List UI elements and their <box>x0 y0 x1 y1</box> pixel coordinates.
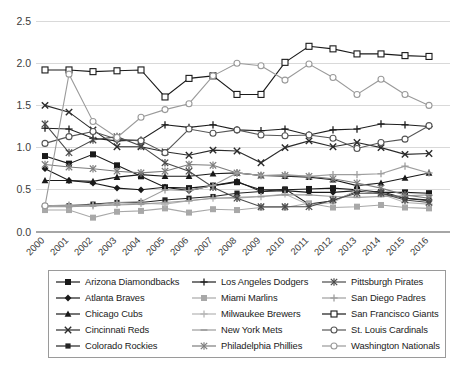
legend-label: New York Mets <box>221 324 282 336</box>
legend-marker-icon <box>321 292 347 304</box>
x-tick-label: 2012 <box>312 235 335 258</box>
data-point-marker <box>258 63 264 69</box>
x-tick-label: 2011 <box>288 235 310 257</box>
data-point-marker <box>90 215 96 221</box>
legend-item-st-louis-cardinals[interactable]: St. Louis Cardinals <box>321 322 453 338</box>
data-point-marker <box>354 145 360 151</box>
data-point-marker <box>138 67 144 73</box>
data-point-marker <box>330 294 337 301</box>
legend-marker-icon <box>191 308 217 320</box>
data-point-marker <box>378 51 384 57</box>
data-point-marker <box>66 149 72 157</box>
legend-label: Washington Nationals <box>351 340 440 352</box>
data-point-marker <box>402 91 408 97</box>
legend-label: Los Angeles Dodgers <box>221 276 308 288</box>
data-point-marker <box>114 134 120 140</box>
data-point-marker <box>306 43 312 49</box>
data-point-marker <box>114 162 120 168</box>
data-point-marker <box>234 91 240 97</box>
legend-item-pittsburgh-pirates[interactable]: Pittsburgh Pirates <box>321 274 453 290</box>
data-point-marker <box>258 91 264 97</box>
x-tick-label: 2016 <box>408 235 431 258</box>
data-point-marker <box>200 310 207 317</box>
data-point-marker <box>138 208 144 214</box>
data-point-marker <box>306 132 312 138</box>
data-point-marker <box>186 75 192 81</box>
data-point-marker <box>234 60 240 66</box>
data-point-marker <box>426 123 432 129</box>
data-point-marker <box>306 61 312 67</box>
legend-item-arizona-diamondbacks[interactable]: Arizona Diamondbacks <box>55 274 191 290</box>
legend-label: San Diego Padres <box>351 292 426 304</box>
data-point-marker <box>186 126 192 132</box>
x-tick-label: 2008 <box>216 235 239 258</box>
data-point-marker <box>401 163 408 170</box>
data-point-marker <box>330 46 336 52</box>
legend-label: Chicago Cubs <box>85 308 143 320</box>
legend-marker-icon <box>321 340 347 352</box>
legend-item-atlanta-braves[interactable]: Atlanta Braves <box>55 290 191 306</box>
data-point-marker <box>329 126 336 133</box>
legend-label: Milwaukee Brewers <box>221 308 301 320</box>
data-point-marker <box>90 129 96 135</box>
legend-marker-icon <box>191 292 217 304</box>
legend-item-chicago-cubs[interactable]: Chicago Cubs <box>55 306 191 322</box>
x-tick-label: 2000 <box>24 235 47 258</box>
legend-item-new-york-mets[interactable]: New York Mets <box>191 322 321 338</box>
data-point-marker <box>330 75 336 81</box>
data-point-marker <box>162 94 168 100</box>
legend-item-los-angeles-dodgers[interactable]: Los Angeles Dodgers <box>191 274 321 290</box>
data-point-marker <box>426 53 432 59</box>
data-point-marker <box>66 71 72 77</box>
legend-item-miami-marlins[interactable]: Miami Marlins <box>191 290 321 306</box>
data-point-marker <box>42 120 48 128</box>
legend-item-philadelphia-phillies[interactable]: Philadelphia Phillies <box>191 338 321 354</box>
x-axis-tick-labels: 2000200120022003200420052006200720082009… <box>24 235 431 258</box>
data-point-marker <box>330 135 336 141</box>
legend-marker-icon <box>55 292 81 304</box>
legend-marker-icon <box>321 324 347 336</box>
data-point-marker <box>209 121 216 128</box>
data-point-marker <box>353 171 360 178</box>
legend-item-cincinnati-reds[interactable]: Cincinnati Reds <box>55 322 191 338</box>
legend-label: San Francisco Giants <box>351 308 439 320</box>
data-point-marker <box>378 140 384 146</box>
legend-item-san-diego-padres[interactable]: San Diego Padres <box>321 290 453 306</box>
y-tick-label: 0.0 <box>16 226 31 238</box>
legend-label: Arizona Diamondbacks <box>85 276 179 288</box>
series-line <box>45 46 429 97</box>
x-tick-label: 2013 <box>336 235 359 258</box>
data-point-marker <box>331 327 337 333</box>
legend-item-milwaukee-brewers[interactable]: Milwaukee Brewers <box>191 306 321 322</box>
data-point-marker <box>234 127 240 133</box>
legend-item-san-francisco-giants[interactable]: San Francisco Giants <box>321 306 453 322</box>
data-point-marker <box>65 295 72 302</box>
legend-label: Pittsburgh Pirates <box>351 276 423 288</box>
data-point-marker <box>200 278 207 285</box>
data-point-marker <box>354 91 360 97</box>
data-point-marker <box>138 114 144 120</box>
data-point-marker <box>42 153 48 159</box>
legend-item-washington-nationals[interactable]: Washington Nationals <box>321 338 453 354</box>
x-tick-label: 2007 <box>192 235 215 258</box>
data-point-marker <box>377 120 384 127</box>
data-series-layer <box>41 43 432 220</box>
x-tick-label: 2005 <box>144 235 167 258</box>
legend-item-colorado-rockies[interactable]: Colorado Rockies <box>55 338 191 354</box>
data-point-marker <box>162 150 168 156</box>
x-tick-label: 2002 <box>72 235 95 258</box>
legend-marker-icon <box>55 324 81 336</box>
data-point-marker <box>281 125 288 132</box>
data-point-marker <box>282 133 288 139</box>
data-point-marker <box>258 160 264 166</box>
data-point-marker <box>401 121 408 128</box>
legend-marker-icon <box>321 276 347 288</box>
data-point-marker <box>377 170 384 177</box>
data-point-marker <box>331 343 337 349</box>
data-point-marker <box>186 101 192 107</box>
legend-grid: Arizona DiamondbacksLos Angeles DodgersP… <box>49 274 445 354</box>
x-tick-label: 2006 <box>168 235 191 258</box>
data-point-marker <box>353 125 360 132</box>
data-point-marker <box>42 203 48 209</box>
data-point-marker <box>378 202 384 208</box>
